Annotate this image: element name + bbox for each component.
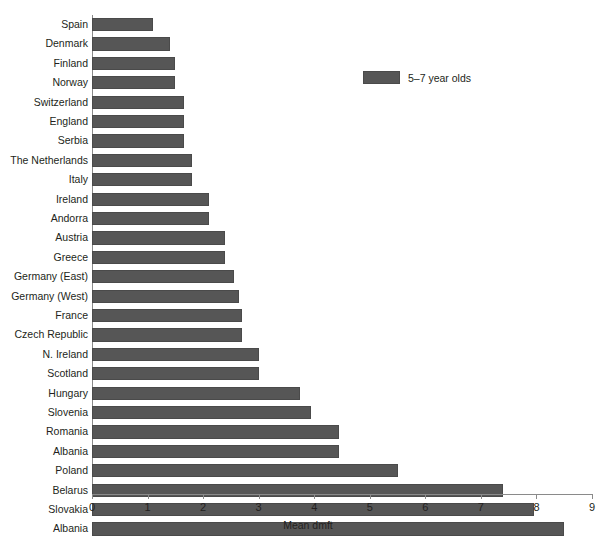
bar-row: Germany (East) xyxy=(0,267,616,286)
bar xyxy=(92,193,209,206)
bar xyxy=(92,154,192,167)
bar-row-label: Italy xyxy=(69,170,88,189)
bar-track xyxy=(92,37,170,50)
bar-track xyxy=(92,367,259,380)
bar xyxy=(92,231,225,244)
x-axis-tick xyxy=(370,494,371,499)
bar xyxy=(92,251,225,264)
bar xyxy=(92,212,209,225)
bar-row: Austria xyxy=(0,228,616,247)
bar-row: N. Ireland xyxy=(0,345,616,364)
bar-track xyxy=(92,76,175,89)
bar-row-label: Poland xyxy=(55,461,88,480)
x-axis-tick-label: 9 xyxy=(577,501,607,513)
bar-row: Serbia xyxy=(0,131,616,150)
bar-row-label: Austria xyxy=(55,228,88,247)
bar-track xyxy=(92,290,239,303)
bar-row: Ireland xyxy=(0,190,616,209)
bar xyxy=(92,464,398,477)
bar-row-label: Denmark xyxy=(45,34,88,53)
bar-track xyxy=(92,309,242,322)
bar-row: Italy xyxy=(0,170,616,189)
bar xyxy=(92,115,184,128)
bar-row-label: Czech Republic xyxy=(14,325,88,344)
bar-track xyxy=(92,328,242,341)
bar-track xyxy=(92,445,339,458)
bar-row: Slovenia xyxy=(0,403,616,422)
bar-row-label: Serbia xyxy=(58,131,88,150)
bar-row-label: Spain xyxy=(61,15,88,34)
bar-track xyxy=(92,425,339,438)
bar-row-label: The Netherlands xyxy=(10,151,88,170)
bar-row: Albania xyxy=(0,442,616,461)
x-axis-tick xyxy=(92,494,93,499)
bar-track xyxy=(92,387,300,400)
bar xyxy=(92,445,339,458)
bar-row-label: Albania xyxy=(53,442,88,461)
bar-row-label: England xyxy=(49,112,88,131)
x-axis-tick xyxy=(536,494,537,499)
bar xyxy=(92,76,175,89)
bar-track xyxy=(92,406,311,419)
bar xyxy=(92,309,242,322)
bar-row-label: Romania xyxy=(46,422,88,441)
bar-row-label: N. Ireland xyxy=(42,345,88,364)
bar-row-label: Greece xyxy=(54,248,88,267)
x-axis-tick-label: 4 xyxy=(299,501,329,513)
bar xyxy=(92,328,242,341)
bar-row: Norway xyxy=(0,73,616,92)
x-axis-title: Mean dmft xyxy=(0,519,616,531)
x-axis-tick-label: 1 xyxy=(133,501,163,513)
plot-area: SpainDenmarkFinlandNorwaySwitzerlandEngl… xyxy=(0,0,616,500)
bar-row-label: Norway xyxy=(52,73,88,92)
bar xyxy=(92,96,184,109)
bar-row: Hungary xyxy=(0,384,616,403)
bar xyxy=(92,348,259,361)
bar-row: The Netherlands xyxy=(0,151,616,170)
x-axis-line xyxy=(92,494,592,495)
bar-row-label: Belarus xyxy=(52,481,88,500)
bar-row-label: Germany (West) xyxy=(11,287,88,306)
bar xyxy=(92,270,234,283)
bar-row: Romania xyxy=(0,422,616,441)
bar-track xyxy=(92,464,398,477)
bar-row: Poland xyxy=(0,461,616,480)
x-axis-tick xyxy=(259,494,260,499)
x-axis-tick xyxy=(203,494,204,499)
bar-track xyxy=(92,173,192,186)
bar-row-label: Finland xyxy=(54,54,88,73)
x-axis-tick-label: 8 xyxy=(521,501,551,513)
x-axis-tick xyxy=(148,494,149,499)
x-axis-tick xyxy=(481,494,482,499)
legend: 5–7 year olds xyxy=(363,71,471,84)
bar-row: Switzerland xyxy=(0,93,616,112)
bar-track xyxy=(92,115,184,128)
bar-track xyxy=(92,193,209,206)
bar xyxy=(92,290,239,303)
x-axis-tick xyxy=(425,494,426,499)
bar-track xyxy=(92,348,259,361)
bar-track xyxy=(92,154,192,167)
bar-row: Spain xyxy=(0,15,616,34)
bar xyxy=(92,18,153,31)
bar-track xyxy=(92,57,175,70)
bar-row: France xyxy=(0,306,616,325)
bar-row-label: Scotland xyxy=(47,364,88,383)
figure-bar-chart-mean-dmft: SpainDenmarkFinlandNorwaySwitzerlandEngl… xyxy=(0,0,616,547)
bar-row-label: Ireland xyxy=(56,190,88,209)
x-axis-tick-label: 2 xyxy=(188,501,218,513)
bar xyxy=(92,134,184,147)
x-axis-tick xyxy=(592,494,593,499)
bar-track xyxy=(92,18,153,31)
bar xyxy=(92,425,339,438)
legend-swatch-5-7-year-olds xyxy=(363,71,400,84)
bar-row-label: Switzerland xyxy=(34,93,88,112)
bar xyxy=(92,37,170,50)
legend-label: 5–7 year olds xyxy=(408,72,471,84)
bar-row-label: Slovenia xyxy=(48,403,88,422)
bar-track xyxy=(92,231,225,244)
bar-row: Denmark xyxy=(0,34,616,53)
bar-track xyxy=(92,270,234,283)
bar-row: Czech Republic xyxy=(0,325,616,344)
bar xyxy=(92,387,300,400)
